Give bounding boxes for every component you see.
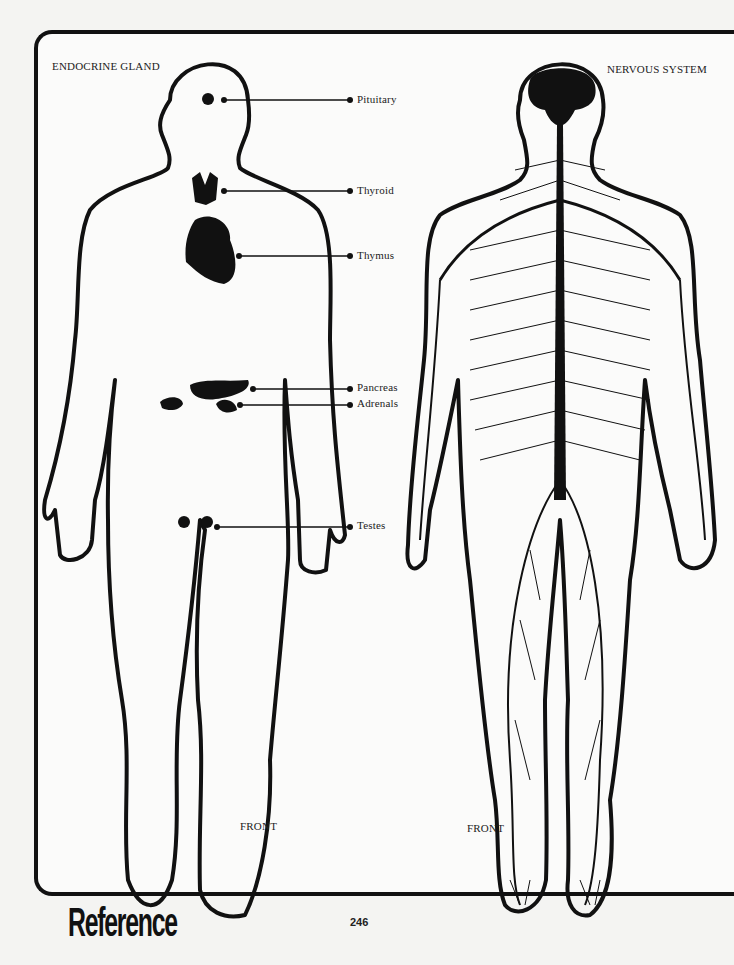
- section-title: Reference: [68, 900, 177, 945]
- testis-right: [201, 516, 213, 528]
- nervous-view-label: FRONT: [467, 822, 504, 834]
- nervous-title: NERVOUS SYSTEM: [607, 63, 707, 75]
- nervous-tissue: [528, 68, 595, 500]
- page-number: 246: [350, 916, 368, 928]
- endocrine-view-label: FRONT: [240, 820, 277, 832]
- pituitary-gland: [202, 93, 214, 105]
- thyroid-gland: [192, 172, 218, 205]
- label-thyroid: Thyroid: [357, 184, 394, 196]
- thymus-gland: [185, 216, 235, 284]
- label-testes: Testes: [357, 519, 386, 531]
- label-pancreas: Pancreas: [357, 381, 398, 393]
- adrenal-right: [216, 400, 237, 413]
- endocrine-title: ENDOCRINE GLAND: [52, 60, 160, 72]
- label-thymus: Thymus: [357, 249, 394, 261]
- testis-left: [178, 516, 190, 528]
- adrenal-left: [160, 397, 183, 410]
- pancreas-gland: [190, 380, 249, 399]
- brain: [528, 68, 595, 126]
- label-adrenals: Adrenals: [357, 397, 398, 409]
- gland-shapes: [160, 93, 249, 528]
- label-pituitary: Pituitary: [357, 93, 397, 105]
